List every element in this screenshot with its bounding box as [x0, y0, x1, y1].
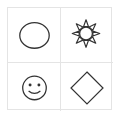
shape-grid: circle sun smiley-face [7, 7, 112, 110]
grid-cell-diamond[interactable]: diamond [61, 63, 113, 111]
grid-cell-circle[interactable]: circle [8, 8, 61, 63]
grid-cell-sun[interactable]: sun [61, 8, 113, 63]
smiley-icon [8, 63, 60, 111]
diamond-icon [61, 63, 113, 111]
grid-cell-smiley[interactable]: smiley-face [8, 63, 61, 111]
circle-icon [8, 8, 60, 62]
sun-icon [61, 8, 113, 62]
